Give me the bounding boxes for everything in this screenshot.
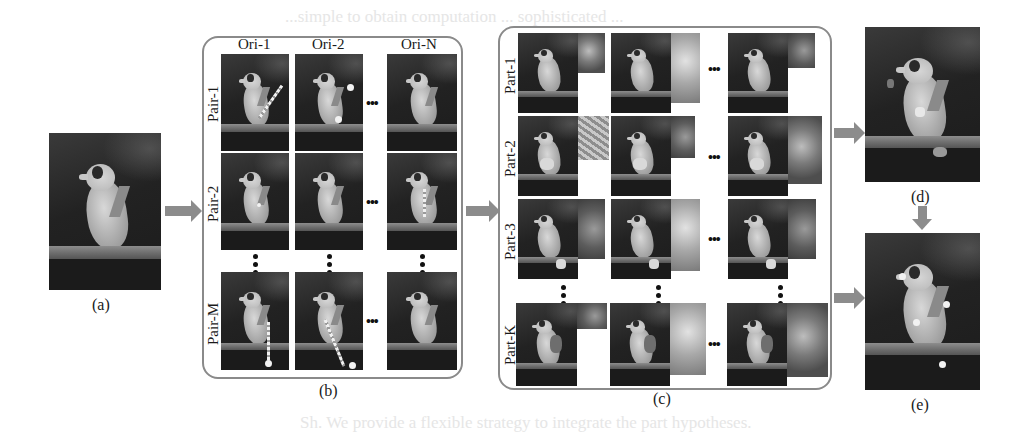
pair-2-ori-2-image	[295, 153, 363, 250]
row-label-pair-1: Pair-1	[205, 86, 222, 122]
part-k-col-2-crop	[670, 303, 706, 375]
part-1-col-1-crop	[578, 33, 605, 73]
column-header-ori-1: Ori-1	[238, 36, 271, 53]
pair-1-ori-2-image	[295, 54, 363, 151]
caption-a: (a)	[92, 296, 110, 314]
arrow-right-icon	[165, 206, 192, 216]
part-2-col-1-image	[518, 116, 578, 196]
input-image-a	[49, 133, 161, 290]
part-2-col-n-crop	[788, 116, 822, 184]
ellipsis-icon: •••	[366, 195, 378, 211]
output-image-d	[865, 27, 980, 182]
arrow-down-icon	[918, 206, 927, 220]
pair-1-ori-n-image	[387, 54, 457, 151]
caption-b: (b)	[319, 382, 338, 400]
part-1-col-2-image	[611, 33, 671, 113]
arrow-right-icon	[834, 293, 855, 303]
part-3-col-1-crop	[578, 199, 605, 259]
ellipsis-icon: •••	[366, 314, 378, 330]
part-1-col-n-crop	[788, 33, 815, 68]
pair-m-ori-1-image	[221, 272, 289, 370]
part-1-col-1-image	[518, 33, 578, 113]
pair-2-ori-n-image	[387, 153, 457, 250]
part-1-col-n-image	[728, 33, 788, 113]
background-text-1: ...simple to obtain computation ... soph…	[285, 6, 624, 28]
caption-c: (c)	[653, 390, 671, 408]
ellipsis-icon: •••	[708, 232, 720, 248]
part-k-col-1-crop	[577, 303, 607, 329]
part-3-col-2-image	[611, 199, 671, 279]
pair-m-ori-n-image	[387, 272, 457, 370]
column-header-ori-2: Ori-2	[312, 36, 345, 53]
part-k-col-n-crop	[787, 303, 828, 377]
output-image-e	[865, 233, 980, 390]
arrow-right-icon	[834, 128, 855, 138]
caption-e: (e)	[911, 396, 929, 414]
part-2-col-1-crop	[578, 116, 609, 160]
part-k-col-1-image	[516, 303, 577, 386]
row-label-part-1: Part-1	[502, 57, 519, 94]
ellipsis-icon: •••	[708, 337, 720, 353]
ellipsis-icon: •••	[366, 96, 378, 112]
row-label-pair-m: Pair-M	[205, 303, 222, 345]
part-2-col-2-crop	[671, 116, 695, 158]
part-k-col-2-image	[610, 303, 670, 386]
column-header-ori-n: Ori-N	[401, 36, 437, 53]
row-label-part-2: Part-2	[502, 140, 519, 177]
row-label-part-3: Part-3	[502, 223, 519, 260]
part-3-col-n-image	[728, 199, 788, 279]
pair-m-ori-2-image	[295, 272, 363, 370]
part-k-col-n-image	[727, 303, 787, 386]
ellipsis-icon: •••	[708, 62, 720, 78]
part-3-col-1-image	[518, 199, 578, 279]
arrow-right-icon	[466, 206, 490, 216]
part-1-col-2-crop	[671, 33, 700, 103]
part-2-col-n-image	[728, 116, 788, 196]
part-2-col-2-image	[611, 116, 671, 196]
pair-1-ori-1-image	[221, 54, 289, 151]
part-3-col-n-crop	[788, 199, 816, 259]
pair-2-ori-1-image	[221, 153, 289, 250]
background-text-2: Sh. We provide a flexible strategy to in…	[300, 412, 752, 434]
ellipsis-icon: •••	[708, 150, 720, 166]
part-3-col-2-crop	[671, 199, 700, 271]
row-label-pair-2: Pair-2	[205, 186, 222, 222]
caption-d: (d)	[911, 188, 930, 206]
